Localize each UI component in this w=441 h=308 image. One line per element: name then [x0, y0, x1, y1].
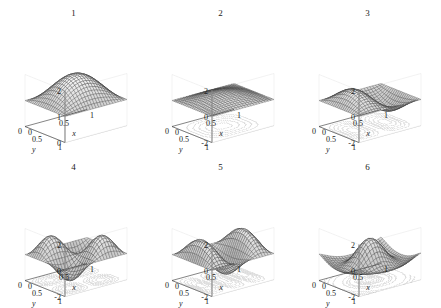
- contour-point: [51, 283, 52, 284]
- contour-point: [79, 291, 80, 292]
- contour-point: [77, 283, 78, 284]
- contour-point: [203, 282, 204, 283]
- contour-point: [108, 276, 109, 277]
- contour-point: [103, 278, 104, 279]
- contour-point: [96, 285, 97, 286]
- contour-point: [193, 127, 194, 128]
- contour-point: [188, 285, 189, 286]
- contour-point: [90, 276, 91, 277]
- contour-point: [39, 282, 40, 283]
- contour-point: [394, 275, 395, 276]
- contour-point: [80, 291, 81, 292]
- contour-point: [243, 269, 244, 270]
- contour-point: [380, 289, 381, 290]
- contour-point: [232, 282, 233, 283]
- contour-point: [330, 278, 331, 279]
- contour-point: [390, 119, 391, 120]
- contour-point: [364, 282, 365, 283]
- contour-point: [241, 269, 242, 270]
- contour-point: [109, 279, 110, 280]
- contour-point: [334, 284, 335, 285]
- contour-point: [341, 134, 342, 135]
- contour-point: [233, 129, 234, 130]
- contour-point: [400, 120, 401, 121]
- contour-point: [57, 276, 58, 277]
- contour-point: [223, 115, 224, 116]
- contour-point: [228, 278, 229, 279]
- contour-point: [229, 286, 230, 287]
- contour-point: [253, 282, 254, 283]
- z-tick-2: 2: [57, 87, 61, 96]
- contour-point: [239, 285, 240, 286]
- contour-point: [222, 276, 223, 277]
- contour-point: [357, 287, 358, 288]
- contour-point: [103, 280, 104, 281]
- contour-point: [81, 288, 82, 289]
- y-tick-1: 1: [58, 143, 62, 152]
- contour-point: [385, 126, 386, 127]
- contour-point: [247, 272, 248, 273]
- contour-point: [395, 122, 396, 123]
- contour-point: [383, 278, 384, 279]
- contour-point: [257, 277, 258, 278]
- contour-point: [45, 281, 46, 282]
- contour-point: [401, 282, 402, 283]
- contour-point: [216, 276, 217, 277]
- contour-point: [224, 278, 225, 279]
- contour-point: [371, 115, 372, 116]
- contour-point: [92, 283, 93, 284]
- contour-point: [370, 281, 371, 282]
- contour-point: [47, 276, 48, 277]
- contour-point: [50, 279, 51, 280]
- contour-point: [197, 134, 198, 135]
- contour-point: [231, 273, 232, 274]
- contour-point: [88, 270, 89, 271]
- contour-point: [83, 284, 84, 285]
- contour-point: [217, 279, 218, 280]
- contour-point: [202, 283, 203, 284]
- contour-point: [409, 124, 410, 125]
- x-tick-1: 1: [90, 111, 94, 120]
- x-tick-0: 0: [322, 282, 326, 291]
- contour-point: [396, 277, 397, 278]
- contour-point: [364, 121, 365, 122]
- contour-point: [200, 275, 201, 276]
- contour-point: [196, 121, 197, 122]
- contour-point: [221, 278, 222, 279]
- contour-point: [180, 281, 181, 282]
- contour-point: [46, 281, 47, 282]
- contour-point: [66, 286, 67, 287]
- contour-point: [218, 118, 219, 119]
- contour-point: [222, 275, 223, 276]
- contour-point: [370, 125, 371, 126]
- contour-point: [388, 115, 389, 116]
- contour-point: [209, 293, 210, 294]
- contour-point: [257, 281, 258, 282]
- contour-point: [214, 292, 215, 293]
- contour-point: [96, 272, 97, 273]
- contour-point: [217, 274, 218, 275]
- contour-point: [391, 283, 392, 284]
- contour-point: [253, 273, 254, 274]
- contour-point: [396, 278, 397, 279]
- contour-point: [88, 266, 89, 267]
- contour-point: [228, 279, 229, 280]
- contour-point: [366, 115, 367, 116]
- contour-point: [239, 278, 240, 279]
- contour-point: [228, 275, 229, 276]
- contour-point: [410, 276, 411, 277]
- contour-point: [106, 284, 107, 285]
- contour-point: [224, 136, 225, 137]
- contour-point: [405, 284, 406, 285]
- contour-point: [228, 281, 229, 282]
- contour-point: [188, 286, 189, 287]
- contour-point: [350, 279, 351, 280]
- contour-point: [229, 118, 230, 119]
- contour-point: [198, 134, 199, 135]
- contour-point: [238, 276, 239, 277]
- contour-point: [205, 283, 206, 284]
- contour-point: [87, 281, 88, 282]
- contour-point: [38, 281, 39, 282]
- contour-point: [198, 288, 199, 289]
- contour-point: [348, 286, 349, 287]
